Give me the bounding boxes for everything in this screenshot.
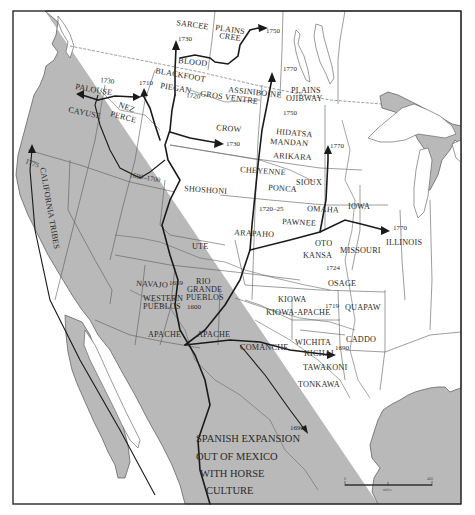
label-apache-east: APACHE	[197, 330, 230, 339]
date-navajo-1659: 1659	[169, 279, 184, 287]
label-kiowa-apache: KIOWA-APACHE	[266, 308, 330, 317]
label-wichita: WICHITA	[295, 338, 331, 347]
caption-line-4: CULTURE	[206, 485, 253, 496]
label-kansa: KANSA	[303, 251, 332, 260]
label-oto: OTO	[315, 239, 332, 248]
date-mandan-1750: 1750	[283, 109, 298, 117]
date-quapaw-1719: 1719	[325, 302, 340, 310]
date-plains-cree-1750: 1750	[266, 27, 281, 35]
date-plains-ojibway-1770: 1770	[283, 65, 298, 73]
label-plains-ojibway-2: OJIBWAY	[286, 94, 323, 103]
label-pawnee: PAWNEE	[282, 217, 316, 228]
label-sioux: SIOUX	[296, 178, 322, 187]
label-tawakoni: TAWAKONI	[303, 363, 347, 372]
scale-end-label: 400	[427, 476, 433, 481]
label-caddo: CADDO	[346, 335, 376, 344]
scale-unit-label: miles	[383, 487, 392, 492]
label-comanche: COMANCHE	[240, 343, 288, 352]
label-apache-west: APACHE	[148, 330, 181, 339]
caption-line-3: WITH HORSE	[200, 468, 264, 479]
date-illinois-1770: 1770	[393, 224, 408, 232]
date-pawnee-1720-25: 1720–25	[259, 205, 284, 213]
label-quapaw: QUAPAW	[345, 303, 381, 312]
date-piegan-1710: 1710	[139, 79, 154, 87]
date-crow-1730: 1730	[226, 140, 241, 148]
date-pueblos-1600: 1600	[187, 303, 202, 311]
horse-diffusion-map: SARCEE PLAINS CREE BLOOD BLACKFOOT PIEGA…	[0, 0, 475, 515]
date-texas-1690: 1690	[290, 424, 305, 432]
date-sioux-1770: 1770	[330, 142, 345, 150]
label-ute: UTE	[192, 242, 209, 251]
label-rio-grande-3: PUEBLOS	[186, 293, 224, 302]
label-iowa: IOWA	[348, 202, 370, 211]
caption-line-2: OUT OF MEXICO	[196, 451, 278, 462]
label-illinois: ILLINOIS	[386, 238, 422, 247]
label-omaha: OMAHA	[307, 204, 339, 215]
label-tonkawa: TONKAWA	[298, 380, 340, 389]
caption-line-1: SPANISH EXPANSION	[196, 433, 300, 444]
date-osage-1724: 1724	[326, 264, 341, 272]
label-osage: OSAGE	[328, 279, 356, 288]
label-navajo: NAVAJO	[136, 279, 168, 290]
scale-start-label: 0	[344, 476, 346, 481]
label-kiowa: KIOWA	[278, 295, 306, 304]
label-western-pueblos-2: PUEBLOS	[143, 302, 181, 311]
date-blackfoot-1730: 1730	[178, 35, 193, 43]
label-missouri: MISSOURI	[340, 246, 381, 255]
date-caddo-1690: 1690	[335, 344, 350, 352]
label-kichai: KICHAI	[304, 349, 334, 358]
